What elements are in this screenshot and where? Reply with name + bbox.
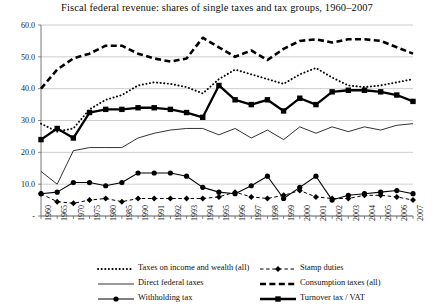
legend-swatch: [258, 264, 298, 274]
series-direct-federal-taxes: [41, 124, 413, 184]
legend-swatch: [258, 279, 298, 289]
gridlines: [38, 25, 413, 216]
series-turnover-tax-vat: [38, 83, 415, 143]
legend-swatch: [258, 294, 298, 304]
y-tick-label: 20.0: [21, 148, 35, 157]
legend-label: Stamp duties: [300, 263, 344, 272]
y-tick-label: 60.0: [21, 21, 35, 30]
y-tick-label: 30.0: [21, 116, 35, 125]
chart-container: Fiscal federal revenue: shares of single…: [0, 0, 434, 307]
legend-label: Direct federal taxes: [138, 278, 204, 287]
legend-swatch: [96, 264, 136, 274]
series-consumption-taxes-all: [41, 38, 413, 89]
y-tick-label: 50.0: [21, 53, 35, 62]
y-tick-label: -: [32, 212, 35, 221]
legend-label: Taxes on income and wealth (all): [138, 263, 249, 272]
series-withholding-tax: [38, 170, 415, 202]
legend-label: Withholding tax: [138, 293, 192, 302]
chart-legend: Taxes on income and wealth (all)Direct f…: [0, 262, 434, 307]
y-axis-tick-labels: -10.020.030.040.050.060.0: [21, 21, 35, 221]
series-stamp-duties: [38, 188, 416, 207]
legend-label: Consumption taxes (all): [300, 278, 380, 287]
legend-label: Turnover tax / VAT: [300, 293, 365, 302]
legend-swatch: [96, 279, 136, 289]
y-tick-label: 10.0: [21, 180, 35, 189]
x-axis-ticks: [41, 216, 413, 219]
chart-plot-area: -10.020.030.040.050.060.0: [0, 0, 434, 307]
series-taxes-on-income-and-wealth-all: [41, 68, 413, 132]
legend-swatch: [96, 294, 136, 304]
y-tick-label: 40.0: [21, 84, 35, 93]
data-series-layer: [38, 38, 416, 207]
